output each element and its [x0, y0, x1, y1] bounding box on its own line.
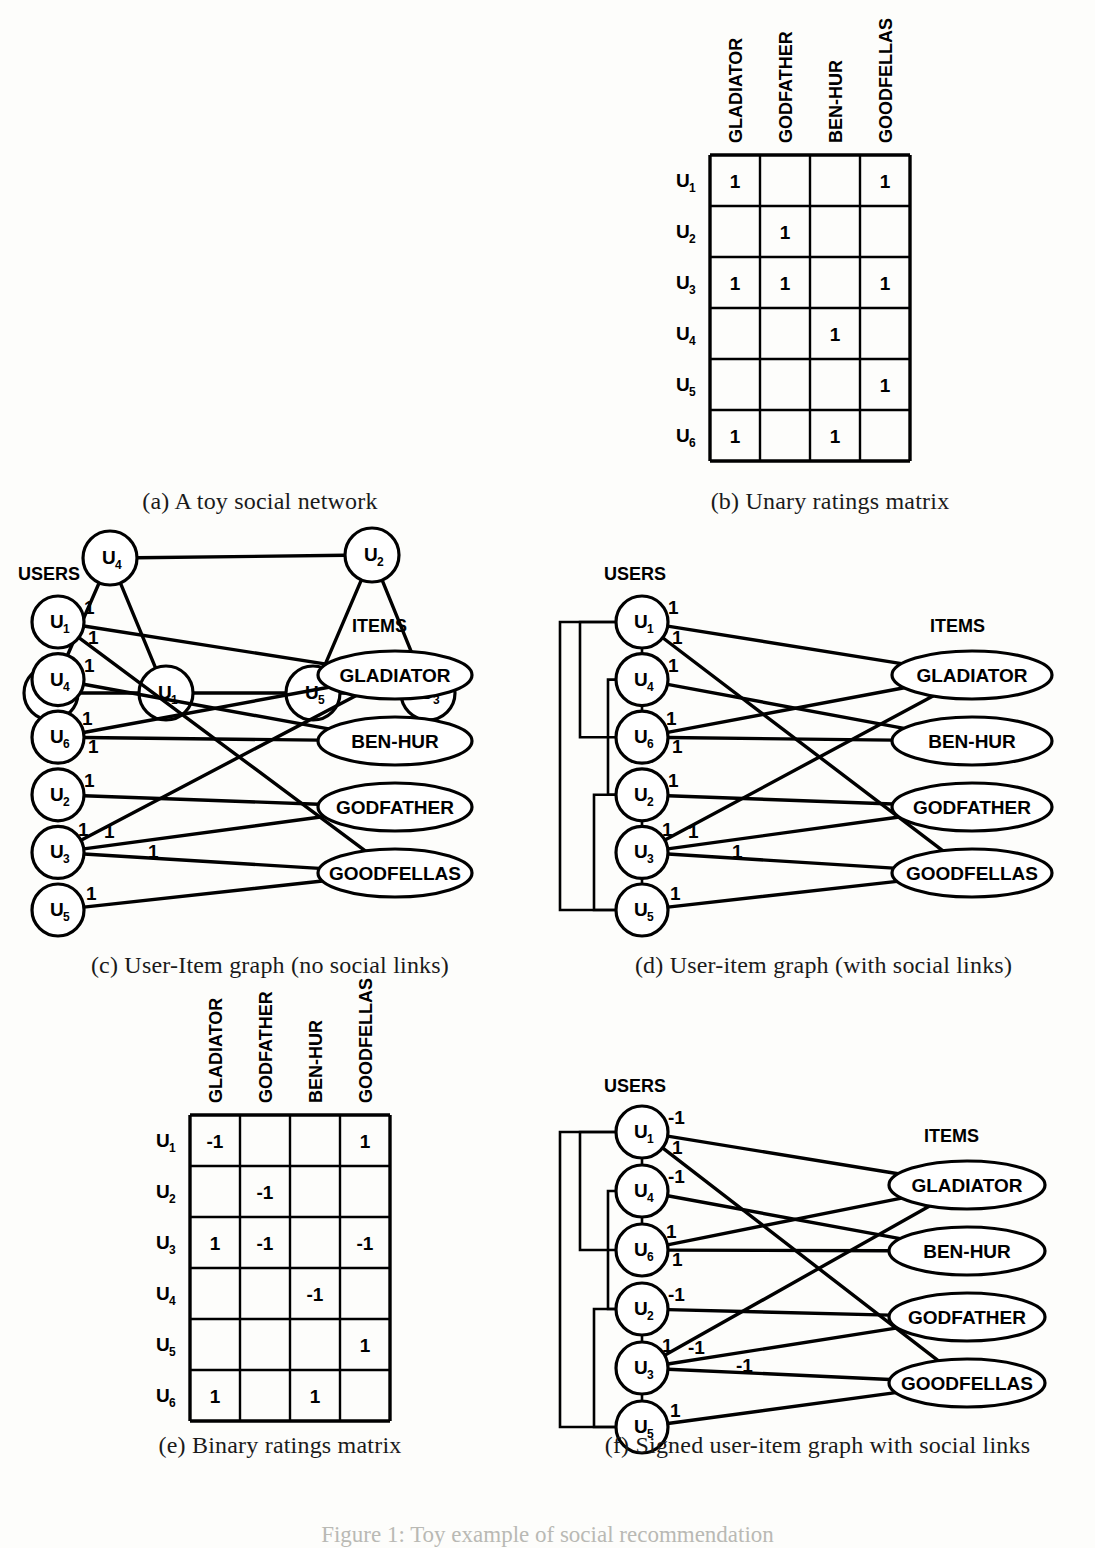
column-header-godfather: GODFATHER — [776, 31, 796, 143]
user-node-U6[interactable]: U6 — [616, 1224, 668, 1276]
panel-a-social-network: U4U2U6U1U5U3 — [0, 250, 520, 490]
rating-edge-U1-GLADIATOR — [84, 626, 327, 664]
matrix-cell-u6-ben-hur: 1 — [310, 1386, 321, 1407]
rating-edge-U6-GLADIATOR — [667, 1198, 901, 1245]
item-node-gladiator[interactable]: GLADIATOR — [889, 1161, 1045, 1209]
svg-text:3: 3 — [169, 1243, 176, 1257]
matrix-cell-u1-goodfellas: 1 — [880, 171, 891, 192]
svg-text:4: 4 — [689, 334, 696, 348]
weight-U3-GOODFELLAS: 1 — [148, 841, 159, 862]
item-node-goodfellas[interactable]: GOODFELLAS — [892, 849, 1052, 897]
item-node-ben-hur[interactable]: BEN-HUR — [892, 717, 1052, 765]
panel-e-binary-matrix: GLADIATORGODFATHERBEN-HURGOODFELLASU1U2U… — [60, 1000, 530, 1420]
item-node-godfather[interactable]: GODFATHER — [892, 783, 1052, 831]
user-node-U3[interactable]: U3 — [32, 826, 84, 878]
item-node-godfather[interactable]: GODFATHER — [318, 783, 472, 831]
caption-panel-a: (a) A toy social network — [0, 488, 520, 515]
user-node-U2[interactable]: U2 — [616, 1283, 668, 1335]
panel-b-unary-matrix: GLADIATORGODFATHERBEN-HURGOODFELLASU1U2U… — [570, 20, 1090, 480]
caption-panel-b: (b) Unary ratings matrix — [570, 488, 1090, 515]
user-node-U2[interactable]: U2 — [32, 769, 84, 821]
matrix-cell-u3-gladiator: 1 — [730, 273, 741, 294]
node-subscript: 1 — [647, 622, 654, 636]
node-label: U — [634, 1239, 648, 1260]
svg-text:4: 4 — [169, 1294, 176, 1308]
user-node-U6[interactable]: U6 — [32, 711, 84, 763]
svg-text:U: U — [156, 1181, 170, 1202]
svg-text:2: 2 — [689, 232, 696, 246]
user-node-U4[interactable]: U4 — [616, 1165, 668, 1217]
matrix-cell-u4-ben-hur: 1 — [830, 324, 841, 345]
svg-text:U: U — [676, 374, 690, 395]
social-link-U2-U5 — [594, 795, 616, 910]
svg-text:6: 6 — [169, 1396, 176, 1410]
user-item-graph-no-social: USERSITEMS1111111111U1U4U6U2U3U5GLADIATO… — [0, 560, 530, 950]
node-label: U — [634, 1121, 648, 1142]
user-node-U3[interactable]: U3 — [616, 1342, 668, 1394]
svg-text:U: U — [156, 1130, 170, 1151]
row-header-u3: U3 — [156, 1232, 176, 1257]
item-node-gladiator[interactable]: GLADIATOR — [892, 651, 1052, 699]
column-header-goodfellas: GOODFELLAS — [356, 978, 376, 1103]
user-node-U1[interactable]: U1 — [616, 596, 668, 648]
user-node-U5[interactable]: U5 — [616, 884, 668, 936]
items-group-label: ITEMS — [924, 1126, 979, 1146]
user-node-U6[interactable]: U6 — [616, 711, 668, 763]
svg-text:U: U — [676, 272, 690, 293]
weight-U5-GOODFELLAS: 1 — [86, 883, 97, 904]
row-header-u5: U5 — [676, 374, 696, 399]
item-node-godfather[interactable]: GODFATHER — [889, 1293, 1045, 1341]
item-label: GLADIATOR — [911, 1175, 1022, 1196]
weight-U1-GOODFELLAS: 1 — [672, 1137, 683, 1158]
matrix-cell-u5-goodfellas: 1 — [880, 375, 891, 396]
column-header-gladiator: GLADIATOR — [206, 998, 226, 1103]
rating-edge-U5-GOODFELLAS — [668, 881, 897, 907]
node-label: U — [634, 611, 648, 632]
matrix-cell-u5-goodfellas: 1 — [360, 1335, 371, 1356]
svg-text:3: 3 — [689, 283, 696, 297]
item-node-goodfellas[interactable]: GOODFELLAS — [318, 849, 472, 897]
node-subscript: 1 — [63, 622, 70, 636]
user-node-U5[interactable]: U5 — [32, 884, 84, 936]
node-label: U — [50, 784, 64, 805]
item-label: GOODFELLAS — [906, 863, 1038, 884]
user-node-U4[interactable]: U4 — [616, 654, 668, 706]
item-label: GOODFELLAS — [901, 1373, 1033, 1394]
weight-U6-BEN-HUR: 1 — [672, 736, 683, 757]
matrix-cell-u1-gladiator: -1 — [207, 1131, 224, 1152]
svg-text:U: U — [676, 221, 690, 242]
matrix-cell-u3-goodfellas: 1 — [880, 273, 891, 294]
user-node-U2[interactable]: U2 — [616, 769, 668, 821]
rating-edge-U2-GODFATHER — [668, 796, 893, 804]
item-node-goodfellas[interactable]: GOODFELLAS — [889, 1359, 1045, 1407]
node-label: U — [634, 1298, 648, 1319]
rating-edge-U5-GOODFELLAS — [668, 1393, 896, 1424]
rating-edge-U3-GLADIATOR — [665, 1206, 930, 1355]
user-node-U1[interactable]: U1 — [616, 1106, 668, 1158]
item-label: BEN-HUR — [351, 731, 439, 752]
weight-U1-GLADIATOR: 1 — [668, 597, 679, 618]
svg-text:1: 1 — [169, 1141, 176, 1155]
item-node-ben-hur[interactable]: BEN-HUR — [889, 1227, 1045, 1275]
node-subscript: 4 — [63, 680, 70, 694]
node-subscript: 5 — [63, 910, 70, 924]
panel-c-user-item-graph: USERSITEMS1111111111U1U4U6U2U3U5GLADIATO… — [0, 560, 530, 950]
rating-edge-U6-GLADIATOR — [84, 687, 329, 732]
column-header-godfather: GODFATHER — [256, 991, 276, 1103]
rating-edge-U6-BEN-HUR — [668, 1250, 889, 1251]
social-edge-U4-U2 — [137, 555, 345, 557]
column-header-ben-hur: BEN-HUR — [826, 60, 846, 143]
user-node-U1[interactable]: U1 — [32, 596, 84, 648]
item-node-gladiator[interactable]: GLADIATOR — [318, 651, 472, 699]
node-subscript: 4 — [647, 1191, 654, 1205]
rating-edge-U2-GODFATHER — [668, 1310, 889, 1315]
user-node-U3[interactable]: U3 — [616, 826, 668, 878]
weight-U6-BEN-HUR: 1 — [88, 736, 99, 757]
caption-panel-f: (f) Signed user-item graph with social l… — [540, 1432, 1095, 1459]
node-subscript: 2 — [647, 1309, 654, 1323]
weight-U2-GODFATHER: 1 — [84, 770, 95, 791]
user-node-U4[interactable]: U4 — [32, 654, 84, 706]
caption-panel-d: (d) User-item graph (with social links) — [552, 952, 1095, 979]
item-node-ben-hur[interactable]: BEN-HUR — [318, 717, 472, 765]
row-header-u1: U1 — [156, 1130, 176, 1155]
